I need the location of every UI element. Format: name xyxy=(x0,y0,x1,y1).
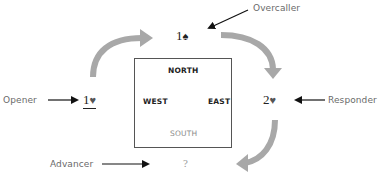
bid-overcaller: 1♠ xyxy=(176,28,188,44)
spade-icon: ♠ xyxy=(183,30,189,42)
bid-responder: 2♥ xyxy=(263,92,276,108)
label-advancer: Advancer xyxy=(50,159,93,169)
seat-east: EAST xyxy=(208,97,230,106)
heart-icon: ♥ xyxy=(90,94,97,106)
label-responder: Responder xyxy=(328,95,377,105)
flow-arrow-responder-to-advancer xyxy=(236,120,275,172)
bid-advancer: ? xyxy=(183,157,188,169)
seat-south: SOUTH xyxy=(170,129,197,138)
label-overcaller: Overcaller xyxy=(253,3,300,13)
label-opener: Opener xyxy=(3,95,37,105)
seat-west: WEST xyxy=(143,97,168,106)
heart-icon: ♥ xyxy=(270,94,277,106)
bid-opener: 1♥ xyxy=(83,92,96,109)
seat-north: NORTH xyxy=(168,66,198,75)
pointer-arrow-overcaller xyxy=(209,10,248,28)
